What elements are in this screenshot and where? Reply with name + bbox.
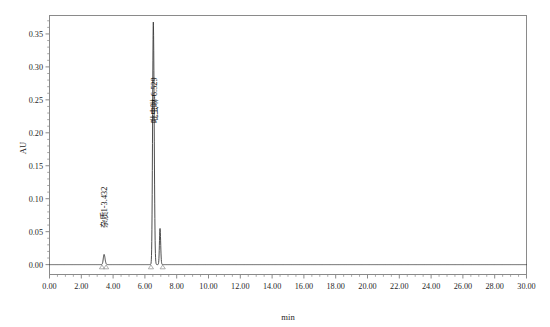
plot-background xyxy=(0,0,550,327)
x-tick-label: 12.00 xyxy=(231,282,249,291)
x-tick-label: 22.00 xyxy=(390,282,408,291)
x-tick-label: 16.00 xyxy=(295,282,313,291)
y-axis-title: AU xyxy=(18,141,28,154)
y-tick-label: 0.35 xyxy=(29,30,43,39)
x-tick-label: 18.00 xyxy=(326,282,344,291)
x-tick-label: 20.00 xyxy=(358,282,376,291)
x-tick-label: 0.00 xyxy=(42,282,56,291)
x-tick-label: 2.00 xyxy=(74,282,88,291)
y-tick-label: 0.25 xyxy=(29,96,43,105)
x-tick-label: 14.00 xyxy=(263,282,281,291)
y-tick-label: 0.00 xyxy=(29,261,43,270)
x-axis-title: min xyxy=(281,312,295,322)
chromatogram-plot: 0.000.050.100.150.200.250.300.35 0.002.0… xyxy=(0,0,550,327)
y-tick-label: 0.10 xyxy=(29,195,43,204)
y-tick-label: 0.30 xyxy=(29,63,43,72)
x-tick-label: 30.00 xyxy=(517,282,535,291)
x-tick-label: 28.00 xyxy=(485,282,503,291)
y-tick-label: 0.05 xyxy=(29,228,43,237)
peak-label: 杂质1-3.432 xyxy=(99,187,109,229)
x-tick-label: 24.00 xyxy=(422,282,440,291)
y-tick-label: 0.15 xyxy=(29,162,43,171)
x-tick-label: 8.00 xyxy=(170,282,184,291)
x-tick-label: 10.00 xyxy=(199,282,217,291)
x-tick-label: 4.00 xyxy=(106,282,120,291)
x-tick-label: 26.00 xyxy=(454,282,472,291)
peak-label: 吡虫啉-6.529 xyxy=(149,77,159,123)
x-tick-label: 6.00 xyxy=(138,282,152,291)
y-tick-label: 0.20 xyxy=(29,129,43,138)
